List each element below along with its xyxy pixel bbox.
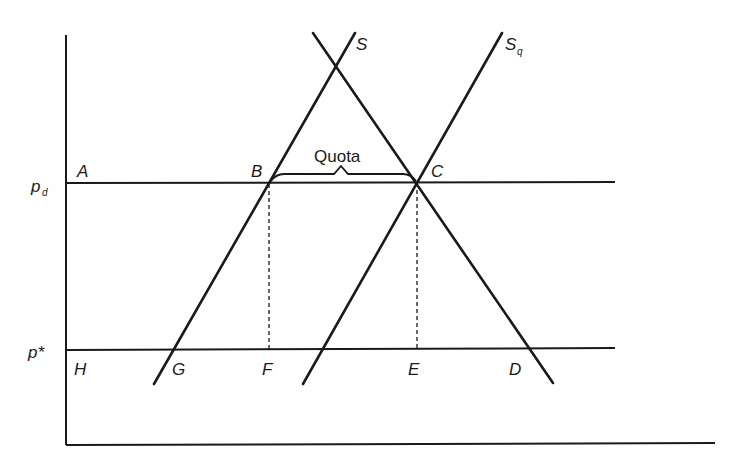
quota-diagram: Quota p d p* S S q A B C H G F E D xyxy=(0,0,742,471)
world-price-line xyxy=(66,348,615,350)
pd-subscript: d xyxy=(42,187,48,198)
pstar-label: p* xyxy=(27,343,45,362)
x-axis xyxy=(66,443,715,445)
s-curve-label: S xyxy=(356,35,368,54)
point-c-label: C xyxy=(431,162,444,181)
sq-subscript: q xyxy=(517,46,523,57)
supply-curve-s xyxy=(154,33,355,384)
point-a-label: A xyxy=(76,162,88,181)
demand-curve xyxy=(313,33,553,383)
point-g-label: G xyxy=(172,360,185,379)
point-f-label: F xyxy=(262,360,274,379)
pd-label: p xyxy=(30,177,40,196)
sq-curve-label: S xyxy=(505,35,517,54)
point-h-label: H xyxy=(74,360,87,379)
point-d-label: D xyxy=(509,360,521,379)
point-e-label: E xyxy=(408,360,420,379)
quota-brace xyxy=(271,166,416,181)
quota-label: Quota xyxy=(314,147,361,166)
supply-curve-sq xyxy=(303,33,502,384)
domestic-price-line xyxy=(66,182,615,183)
point-b-label: B xyxy=(251,162,262,181)
